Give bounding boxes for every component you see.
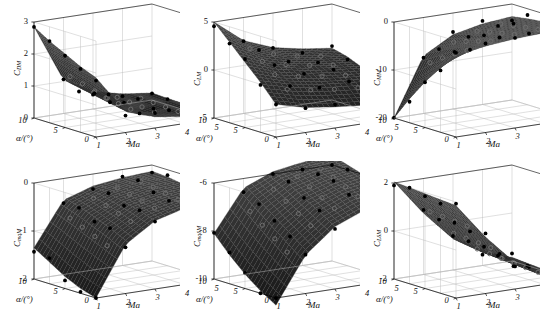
z-tick-label: 5 (204, 16, 208, 26)
x-tick-label: 3 (156, 292, 160, 302)
z-tick-marks (31, 183, 34, 279)
z-axis-label: CmqM (12, 229, 22, 247)
z-axis-label-base: C (12, 241, 22, 247)
figure-3d-surface-grid: 3210123451050Maα/(°)CDM50-5123451050Maα/… (0, 0, 540, 323)
y-tick-label: 10 (378, 276, 387, 286)
z-axis-label-base: C (192, 80, 202, 86)
y-tick-label: 10 (18, 276, 27, 286)
x-tick-label: 3 (336, 131, 340, 141)
z-axis-label-base: C (192, 241, 202, 247)
y-tick-label: 0 (265, 134, 269, 144)
y-axis-label: α/(°) (376, 133, 393, 143)
z-tick-label: 0 (384, 16, 388, 26)
y-tick-label: 5 (54, 286, 58, 296)
y-tick-label: 0 (445, 295, 449, 305)
y-tick-label: 10 (18, 115, 27, 125)
x-tick-label: 3 (516, 292, 520, 302)
y-axis-label: α/(°) (376, 294, 393, 304)
x-tick-label: 1 (457, 301, 461, 311)
panel-cmqdm: -6-8-10123451050Maα/(°)CmqδM (180, 161, 360, 322)
z-axis-label: CmqδM (192, 226, 202, 247)
y-tick-label: 10 (198, 276, 207, 286)
z-axis-label: CLδM (372, 230, 382, 247)
surface-mesh (394, 16, 540, 118)
y-tick-label: 5 (54, 125, 58, 135)
x-tick-label: 3 (156, 131, 160, 141)
surface-mesh (34, 27, 180, 117)
axis-lines (34, 4, 180, 137)
z-axis-label: CDM (12, 61, 22, 76)
y-tick-label: 5 (234, 125, 238, 135)
y-tick-label: 5 (234, 286, 238, 296)
x-tick-label: 1 (277, 140, 281, 150)
panel-clm: 50-5123451050Maα/(°)CLM (180, 0, 360, 161)
y-axis-label: α/(°) (196, 133, 213, 143)
z-tick-label: 3 (24, 16, 28, 26)
z-tick-marks (391, 183, 394, 279)
y-tick-label: 10 (378, 115, 387, 125)
y-tick-label: 0 (85, 295, 89, 305)
surface-mesh (214, 22, 360, 107)
z-tick-marks (211, 22, 214, 118)
y-tick-label: 0 (445, 134, 449, 144)
surface-mesh (34, 171, 180, 298)
z-axis-label-subscript: mqM (16, 229, 22, 241)
z-tick-label: 2 (384, 177, 388, 187)
panel-cldm: 20-2123451050Maα/(°)CLδM (360, 161, 540, 322)
z-axis-label-subscript: LδM (376, 230, 382, 241)
z-axis-label: CLM (192, 72, 202, 86)
panel-cdm: 3210123451050Maα/(°)CDM (0, 0, 180, 161)
z-tick-label: -6 (200, 177, 207, 187)
x-axis-label: Ma (488, 139, 500, 149)
y-tick-label: 5 (414, 125, 418, 135)
x-axis-label: Ma (488, 300, 500, 310)
x-axis-label: Ma (128, 139, 140, 149)
y-tick-label: 0 (265, 295, 269, 305)
y-axis-label: α/(°) (16, 294, 33, 304)
z-axis-label-base: C (372, 80, 382, 86)
z-axis-label-subscript: MM (376, 70, 382, 80)
y-tick-label: 0 (85, 134, 89, 144)
x-tick-label: 1 (277, 301, 281, 311)
z-tick-label: 1 (24, 80, 28, 90)
x-axis-label: Ma (308, 139, 320, 149)
x-tick-label: 3 (336, 292, 340, 302)
x-axis-label: Ma (308, 300, 320, 310)
z-tick-label: 0 (384, 225, 388, 235)
x-tick-label: 1 (97, 140, 101, 150)
z-tick-marks (31, 22, 34, 118)
z-tick-marks (391, 22, 394, 118)
x-tick-label: 1 (457, 140, 461, 150)
z-tick-marks (211, 183, 214, 279)
x-tick-label: 3 (516, 131, 520, 141)
x-tick-label: 1 (97, 301, 101, 311)
z-tick-label: 2 (24, 48, 28, 58)
x-axis-label: Ma (128, 300, 140, 310)
z-axis-label-base: C (12, 70, 22, 76)
z-axis-label-subscript: LM (196, 72, 202, 80)
y-tick-label: 10 (198, 115, 207, 125)
panel-cmm: 0-10-20123451050Maα/(°)CMM (360, 0, 540, 161)
z-tick-label: 0 (204, 64, 208, 74)
y-axis-label: α/(°) (196, 294, 213, 304)
surface-mesh (394, 182, 540, 280)
z-axis-label-subscript: mqδM (196, 226, 202, 241)
z-axis-label-subscript: DM (16, 61, 22, 70)
z-axis-label: CMM (372, 70, 382, 86)
z-tick-label: 0 (24, 177, 28, 187)
y-tick-label: 5 (414, 286, 418, 296)
panel-cmqm: 0-1-2123451050Maα/(°)CmqM (0, 161, 180, 322)
y-axis-label: α/(°) (16, 133, 33, 143)
z-axis-label-base: C (372, 241, 382, 247)
